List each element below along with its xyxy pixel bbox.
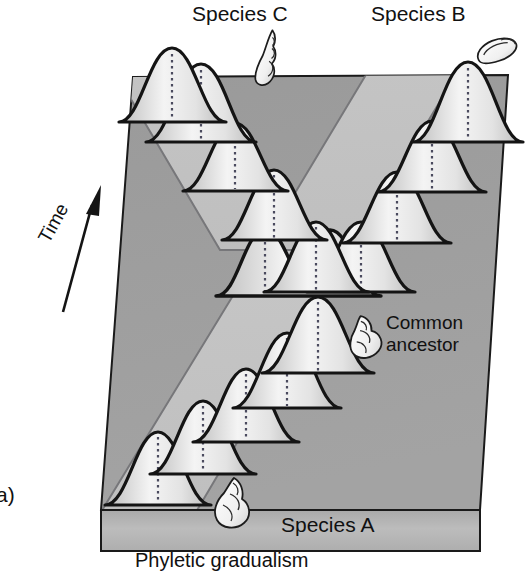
shell-species-b-icon: [475, 36, 519, 66]
species-a-label: Species A: [281, 513, 374, 537]
species-b-label: Species B: [371, 2, 466, 26]
species-c-label: Species C: [192, 2, 288, 26]
figure-caption: Phyletic gradualism: [135, 549, 308, 572]
panel-letter-label: a): [0, 483, 15, 507]
common-ancestor-label: Common ancestor: [386, 312, 463, 356]
time-axis-arrow: [63, 185, 101, 312]
